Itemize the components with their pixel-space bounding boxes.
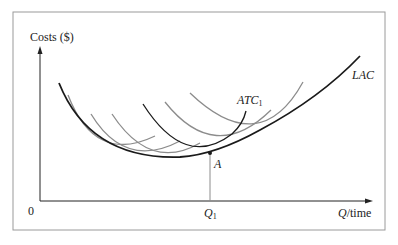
q1-sub: 1 xyxy=(213,212,217,221)
x-axis-label-q: Q xyxy=(338,206,347,220)
atc1-curve xyxy=(143,104,246,147)
q1-tick-label: Q1 xyxy=(204,207,217,223)
point-a-marker xyxy=(208,151,212,155)
figure-frame xyxy=(13,12,385,230)
x-axis-arrow-icon xyxy=(365,199,373,204)
point-a-label: A xyxy=(214,158,221,170)
y-axis-arrow-icon xyxy=(38,46,43,54)
atc1-label: ATC1 xyxy=(237,94,263,110)
q1-main: Q xyxy=(204,206,213,220)
atc1-main: ATC xyxy=(237,93,259,107)
atc1-sub: 1 xyxy=(259,99,263,108)
x-axis-label-rest: /time xyxy=(347,206,372,220)
y-axis-label: Costs ($) xyxy=(30,31,74,43)
lac-curve xyxy=(59,56,360,157)
lac-label: LAC xyxy=(352,69,374,81)
origin-label: 0 xyxy=(28,205,34,217)
x-axis-label: Q/time xyxy=(338,207,371,219)
